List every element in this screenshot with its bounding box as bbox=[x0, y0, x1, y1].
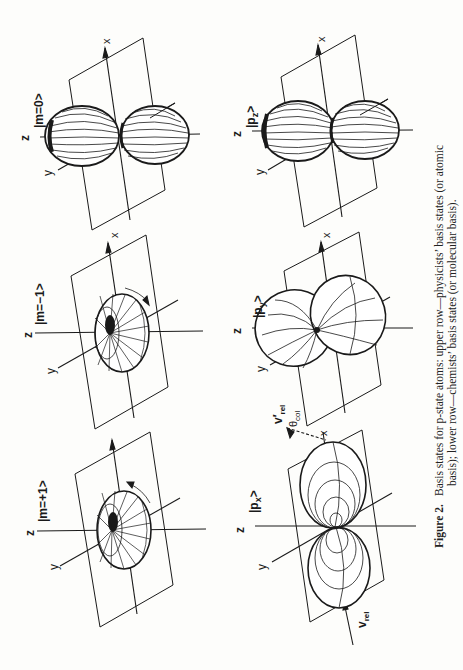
ket-label-p-y: |py> bbox=[251, 295, 267, 318]
z-axis-label: z bbox=[23, 530, 37, 536]
ket-label-p-z: |pz> bbox=[244, 106, 260, 128]
panel-p-z: x z y |pz> bbox=[230, 35, 413, 227]
z-axis-label: z bbox=[18, 135, 32, 141]
x-axis-label: x bbox=[320, 232, 332, 238]
ket-label-m-minus-1: |m=−1> bbox=[33, 283, 47, 325]
caption-line-1: Basis states for p-state atoms: upper ro… bbox=[433, 145, 445, 496]
theta-col-label: θcol bbox=[287, 410, 302, 427]
y-axis-label: y bbox=[41, 170, 55, 176]
z-axis-label: z bbox=[230, 328, 244, 334]
x-axis-arrow-icon bbox=[110, 440, 115, 450]
y-axis-label: y bbox=[254, 366, 268, 372]
orbital-lobes bbox=[300, 442, 370, 608]
orbital-torus bbox=[95, 294, 149, 372]
figure-2: x z y |m=0> x z y |m=−1> bbox=[0, 0, 463, 670]
x-axis-label: x bbox=[315, 36, 327, 42]
panel-p-y: x z y |py> bbox=[230, 232, 413, 426]
y-axis-label: y bbox=[47, 564, 61, 570]
x-axis-arrow-icon bbox=[316, 45, 321, 55]
page: x z y |m=0> x z y |m=−1> bbox=[0, 0, 463, 670]
z-axis-label: z bbox=[233, 527, 247, 533]
x-axis-arrow-icon bbox=[106, 243, 111, 253]
x-axis-arrow-icon bbox=[103, 48, 108, 58]
rotation-arrow-icon bbox=[127, 482, 134, 488]
orbital-lobes bbox=[262, 101, 399, 161]
x-axis-label: x bbox=[108, 232, 120, 238]
ket-label-m-plus-1: |m=+1> bbox=[36, 480, 50, 522]
y-axis-label: y bbox=[44, 368, 58, 374]
panel-m-0: x z y |m=0> bbox=[18, 38, 200, 230]
z-axis-label: z bbox=[21, 332, 35, 338]
x-axis-label: x bbox=[317, 430, 329, 436]
panel-m-minus-1: x z y |m=−1> bbox=[21, 232, 203, 429]
v-rel-prime-label: v′rel bbox=[271, 405, 287, 424]
panel-m-plus-1: z y |m=+1> bbox=[23, 432, 206, 627]
orbital-lobes bbox=[243, 263, 399, 379]
figure-number: Figure 2. bbox=[433, 504, 445, 548]
orbital-torus bbox=[97, 491, 151, 569]
z-axis-label: z bbox=[230, 131, 244, 137]
ket-label-m-0: |m=0> bbox=[32, 93, 46, 128]
ket-label-p-x: |px> bbox=[247, 490, 263, 513]
y-axis-label: y bbox=[253, 169, 267, 175]
v-rel-label: vrel bbox=[355, 612, 371, 628]
x-axis-arrow-icon bbox=[319, 242, 324, 252]
y-axis-label: y bbox=[255, 564, 269, 570]
caption-line-2: basis); lower row—chemists’ basis states… bbox=[446, 199, 458, 486]
panel-p-x: x z y |px> vrel v′rel θcol bbox=[233, 405, 416, 645]
orbital-lobes bbox=[45, 106, 189, 166]
x-axis-label: x bbox=[100, 38, 112, 44]
